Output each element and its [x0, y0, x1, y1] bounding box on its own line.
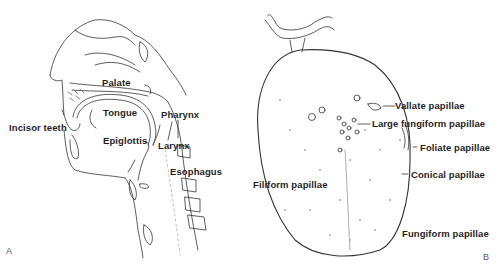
- label-large-fungiform-papillae: Large fungiform papillae: [372, 119, 485, 129]
- panel-b-tongue-surface: Vallate papillae Large fungiform papilla…: [250, 0, 500, 268]
- label-fungiform-papillae: Fungiform papillae: [402, 229, 489, 239]
- label-filiform-papillae: Filiform papillae: [253, 180, 328, 190]
- sagittal-section-drawing: [0, 0, 250, 268]
- panel-a-sagittal-section: Palate Tongue Incisor teeth Epiglottis P…: [0, 0, 250, 268]
- label-conical-papillae: Conical papillae: [411, 170, 485, 180]
- panel-letter-b: B: [483, 252, 489, 262]
- label-epiglottis: Epiglottis: [103, 136, 147, 146]
- label-foliate-papillae: Foliate papillae: [420, 143, 490, 153]
- label-pharynx: Pharynx: [161, 110, 199, 120]
- label-vallate-papillae: Vallate papillae: [395, 101, 465, 111]
- label-larynx: Larynx: [158, 141, 190, 151]
- label-incisor-teeth: Incisor teeth: [9, 123, 67, 133]
- label-tongue: Tongue: [103, 108, 137, 118]
- panel-letter-a: A: [6, 246, 12, 256]
- label-palate: Palate: [102, 78, 131, 88]
- label-esophagus: Esophagus: [170, 167, 222, 177]
